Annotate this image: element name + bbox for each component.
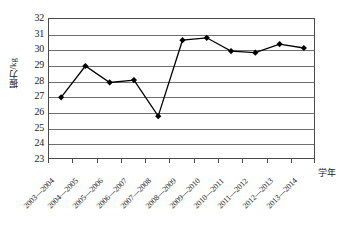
y-axis-tick-label: 23 bbox=[28, 154, 44, 164]
y-axis-tick-label: 27 bbox=[28, 91, 44, 101]
y-axis-tick-label: 24 bbox=[28, 138, 44, 148]
y-axis-tick-label: 29 bbox=[28, 60, 44, 70]
series-line bbox=[61, 38, 304, 116]
data-point-marker bbox=[204, 35, 210, 41]
chart-figure: 握力/kg 32313029282726252423 2003—20042004… bbox=[0, 0, 345, 235]
y-axis-tick-label: 25 bbox=[28, 123, 44, 133]
y-axis-tick-label: 31 bbox=[28, 29, 44, 39]
data-series-line bbox=[49, 19, 316, 160]
x-axis-title: 学年 bbox=[318, 168, 336, 178]
y-axis-tick-label: 30 bbox=[28, 44, 44, 54]
data-point-marker bbox=[252, 50, 258, 56]
data-point-marker bbox=[301, 45, 307, 51]
y-axis-title: 握力/kg bbox=[8, 58, 22, 88]
x-axis-tick-labels: 2003—20042004—20052005—20062006—20072007… bbox=[48, 163, 315, 233]
y-axis-tick-label: 32 bbox=[28, 13, 44, 23]
plot-area bbox=[48, 18, 315, 159]
data-point-marker bbox=[179, 37, 185, 43]
y-axis-tick-labels: 32313029282726252423 bbox=[26, 18, 44, 159]
y-axis-tick-label: 26 bbox=[28, 107, 44, 117]
data-point-marker bbox=[228, 48, 234, 54]
y-axis-tick-label: 28 bbox=[28, 76, 44, 86]
data-point-marker bbox=[276, 41, 282, 47]
